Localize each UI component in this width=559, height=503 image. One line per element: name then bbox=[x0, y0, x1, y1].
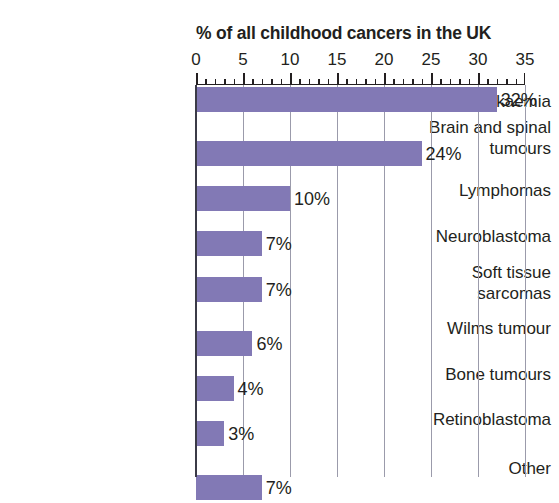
x-tick-major-35 bbox=[524, 73, 526, 85]
bar-value-label: 7% bbox=[262, 279, 292, 300]
bar-row[interactable]: 7% bbox=[196, 277, 525, 302]
bar-row[interactable]: 7% bbox=[196, 475, 525, 500]
gridline-35 bbox=[525, 85, 526, 477]
bar[interactable] bbox=[196, 186, 290, 211]
bar[interactable] bbox=[196, 331, 252, 356]
bar-row[interactable]: 4% bbox=[196, 376, 525, 401]
bar-row[interactable]: 3% bbox=[196, 421, 525, 446]
x-tick-label-10: 10 bbox=[281, 50, 300, 70]
bar-value-label: 3% bbox=[224, 423, 254, 444]
x-tick-label-15: 15 bbox=[328, 50, 347, 70]
x-tick-major-20 bbox=[384, 73, 386, 85]
x-tick-major-15 bbox=[337, 73, 339, 85]
bar-value-label: 24% bbox=[422, 143, 462, 164]
bar[interactable] bbox=[196, 231, 262, 256]
bar[interactable] bbox=[196, 141, 422, 166]
bar-row[interactable]: 7% bbox=[196, 231, 525, 256]
x-axis-tick-labels: 05101520253035 bbox=[196, 50, 525, 72]
bar-value-label: 6% bbox=[252, 333, 282, 354]
bar-value-label: 7% bbox=[262, 233, 292, 254]
bar[interactable] bbox=[196, 421, 224, 446]
bar-value-label: 7% bbox=[262, 477, 292, 498]
x-tick-label-0: 0 bbox=[191, 50, 200, 70]
x-tick-label-20: 20 bbox=[375, 50, 394, 70]
x-tick-label-30: 30 bbox=[469, 50, 488, 70]
x-tick-major-5 bbox=[243, 73, 245, 85]
bar[interactable] bbox=[196, 87, 497, 112]
bar[interactable] bbox=[196, 277, 262, 302]
bar[interactable] bbox=[196, 376, 234, 401]
bar-value-label: 4% bbox=[234, 378, 264, 399]
x-tick-label-25: 25 bbox=[422, 50, 441, 70]
chart-title: % of all childhood cancers in the UK bbox=[196, 23, 491, 44]
bar-row[interactable]: 6% bbox=[196, 331, 525, 356]
x-tick-label-35: 35 bbox=[516, 50, 535, 70]
x-tick-label-5: 5 bbox=[238, 50, 247, 70]
y-axis-line bbox=[195, 85, 198, 477]
x-tick-major-0 bbox=[196, 73, 198, 85]
bar-value-label: 32% bbox=[497, 89, 537, 110]
x-tick-major-25 bbox=[431, 73, 433, 85]
bar[interactable] bbox=[196, 475, 262, 500]
bar-value-label: 10% bbox=[290, 188, 330, 209]
bar-row[interactable]: 24% bbox=[196, 141, 525, 166]
bar-row[interactable]: 10% bbox=[196, 186, 525, 211]
x-axis-ruler bbox=[196, 72, 525, 85]
x-tick-major-30 bbox=[478, 73, 480, 85]
bar-row[interactable]: 32% bbox=[196, 87, 525, 112]
bar-chart: % of all childhood cancers in the UK 051… bbox=[0, 0, 559, 503]
x-tick-major-10 bbox=[290, 73, 292, 85]
